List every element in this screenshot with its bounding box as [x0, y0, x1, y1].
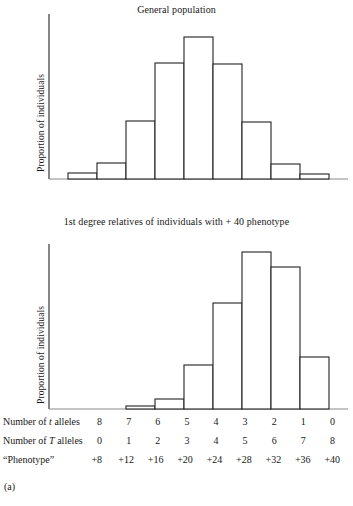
cell-phen-7: +36 [288, 454, 317, 465]
cell-T-4: 4 [201, 435, 230, 446]
bar-bottom-3 [126, 406, 155, 409]
bar-top-9 [300, 174, 329, 179]
label-row-T-alleles: Number of T alleles 0 1 2 3 4 5 6 7 8 [0, 433, 353, 452]
cell-T-8: 8 [318, 435, 347, 446]
bar-top-5 [184, 37, 213, 179]
row-values-t-alleles: 8 7 6 5 4 3 2 1 0 [85, 416, 347, 427]
row-title-phenotype: “Phenotype” [3, 454, 54, 465]
cell-phen-6: +32 [259, 454, 288, 465]
row-title-T-alleles: Number of T alleles [3, 435, 83, 446]
bar-bottom-7 [242, 252, 271, 409]
bars-general-population [68, 37, 329, 179]
cell-t-6: 2 [260, 416, 289, 427]
cell-t-4: 4 [201, 416, 230, 427]
histogram-general-population [48, 14, 348, 184]
cell-t-8: 0 [318, 416, 347, 427]
cell-phen-2: +16 [141, 454, 170, 465]
row-values-T-alleles: 0 1 2 3 4 5 6 7 8 [85, 435, 347, 446]
cell-T-1: 1 [114, 435, 143, 446]
bar-bottom-5 [184, 365, 213, 409]
chart-general-population [48, 14, 348, 184]
bar-top-4 [155, 63, 184, 179]
cell-phen-0: +8 [82, 454, 111, 465]
row-values-phenotype: +8 +12 +16 +20 +24 +28 +32 +36 +40 [82, 454, 347, 465]
bar-bottom-6 [213, 303, 242, 409]
figure-panel-a: General population Proportion of individ… [0, 0, 353, 506]
cell-T-3: 3 [172, 435, 201, 446]
bars-first-degree-relatives [126, 252, 329, 409]
bar-top-2 [97, 163, 126, 179]
row-title-t-alleles: Number of t alleles [3, 416, 80, 427]
bar-bottom-8 [271, 267, 300, 409]
panel-letter: (a) [4, 481, 15, 492]
bar-bottom-9 [300, 357, 329, 409]
chart-title-first-degree-relatives: 1st degree relatives of individuals with… [0, 216, 353, 227]
chart-first-degree-relatives [48, 244, 348, 414]
cell-T-7: 7 [289, 435, 318, 446]
cell-phen-5: +28 [229, 454, 258, 465]
bar-top-8 [271, 164, 300, 179]
bar-bottom-4 [155, 399, 184, 409]
bar-top-3 [126, 121, 155, 179]
cell-phen-8: +40 [318, 454, 347, 465]
cell-phen-1: +12 [111, 454, 140, 465]
cell-t-3: 5 [172, 416, 201, 427]
bar-top-1 [68, 173, 97, 179]
cell-phen-4: +24 [200, 454, 229, 465]
cell-T-5: 5 [231, 435, 260, 446]
cell-t-7: 1 [289, 416, 318, 427]
cell-t-5: 3 [231, 416, 260, 427]
histogram-first-degree-relatives [48, 244, 348, 414]
y-axis-label-top: Proportion of individuals [36, 74, 46, 172]
label-row-phenotype: “Phenotype” +8 +12 +16 +20 +24 +28 +32 +… [0, 452, 353, 471]
cell-t-1: 7 [114, 416, 143, 427]
label-row-t-alleles: Number of t alleles 8 7 6 5 4 3 2 1 0 [0, 414, 353, 433]
cell-T-6: 6 [260, 435, 289, 446]
cell-phen-3: +20 [170, 454, 199, 465]
cell-T-2: 2 [143, 435, 172, 446]
bar-top-6 [213, 64, 242, 179]
y-axis-label-bottom: Proportion of individuals [36, 306, 46, 404]
x-axis-label-table: Number of t alleles 8 7 6 5 4 3 2 1 0 Nu… [0, 414, 353, 471]
cell-t-2: 6 [143, 416, 172, 427]
bar-top-7 [242, 122, 271, 179]
cell-T-0: 0 [85, 435, 114, 446]
cell-t-0: 8 [85, 416, 114, 427]
